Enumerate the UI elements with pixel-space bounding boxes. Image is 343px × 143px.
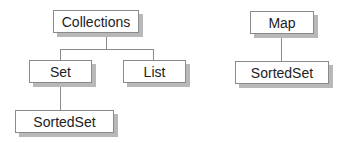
node-list: List: [123, 60, 186, 83]
connector-to-list: [153, 49, 154, 60]
connector-collections-down: [106, 32, 107, 49]
connector-set-to-sortedset: [60, 82, 61, 110]
node-sortedset-right: SortedSet: [235, 61, 329, 84]
node-sortedset-left: SortedSet: [15, 110, 114, 133]
connector-to-set: [60, 49, 61, 60]
node-collections: Collections: [53, 10, 139, 33]
connector-map-to-sortedset: [281, 33, 282, 61]
node-map: Map: [250, 11, 314, 34]
node-set: Set: [29, 60, 92, 83]
connector-horizontal-branch: [60, 49, 154, 50]
